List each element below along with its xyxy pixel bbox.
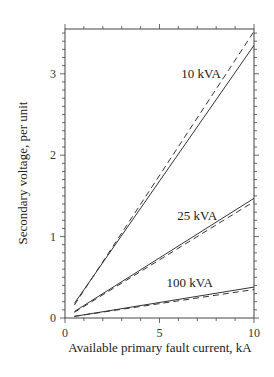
y-tick-label: 2 — [50, 148, 56, 162]
y-tick-label: 1 — [50, 230, 56, 244]
y-tick-label: 0 — [50, 311, 56, 325]
series-annotation: 25 kVA — [177, 208, 217, 223]
series-line — [74, 202, 254, 313]
x-tick-label: 0 — [62, 326, 68, 340]
series-line — [74, 198, 254, 311]
chart: 05100123 10 kVA25 kVA100 kVA Available p… — [0, 0, 274, 377]
annotations: 10 kVA25 kVA100 kVA — [167, 66, 222, 290]
plot-border — [65, 29, 254, 318]
series-annotation: 100 kVA — [167, 275, 214, 290]
series-line — [74, 45, 254, 303]
series-lines — [74, 31, 254, 316]
x-tick-label: 10 — [248, 326, 260, 340]
series-line — [74, 287, 254, 316]
y-axis-label: Secondary voltage, per unit — [15, 101, 30, 244]
series-annotation: 10 kVA — [181, 66, 221, 81]
y-tick-label: 3 — [50, 67, 56, 81]
x-tick-label: 5 — [157, 326, 163, 340]
x-axis-label: Available primary fault current, kA — [68, 340, 252, 355]
